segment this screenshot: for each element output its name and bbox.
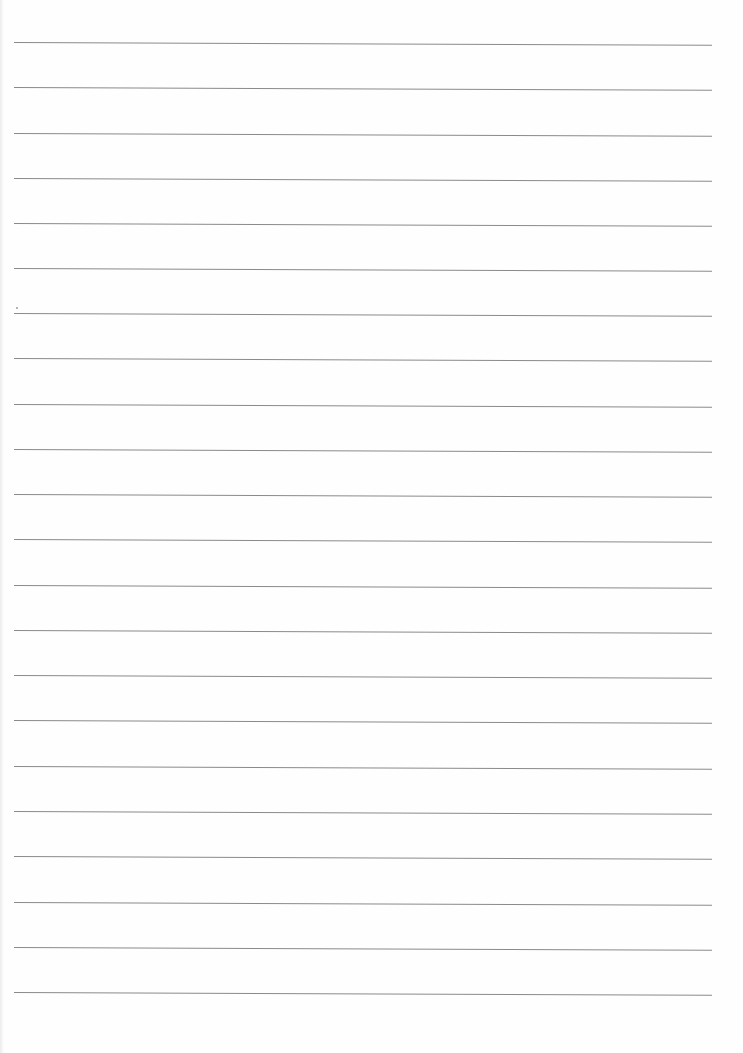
ruled-line <box>14 539 712 543</box>
ruled-line <box>14 404 712 408</box>
ruled-line <box>14 992 712 996</box>
ruled-line <box>14 449 712 453</box>
ruled-line <box>14 720 712 724</box>
scan-speck <box>16 307 18 309</box>
ruled-line <box>14 856 712 860</box>
ruled-line <box>14 902 712 906</box>
ruled-line <box>14 223 712 227</box>
ruled-line <box>14 87 712 91</box>
ruled-line <box>14 585 712 589</box>
ruled-line <box>14 178 712 182</box>
ruled-line <box>14 630 712 634</box>
ruled-line <box>14 268 712 272</box>
ruled-line <box>14 766 712 770</box>
ruled-line <box>14 494 712 498</box>
ruled-line <box>14 947 712 951</box>
ruled-line <box>14 675 712 679</box>
ruled-line <box>14 313 712 317</box>
scan-edge-shadow <box>0 0 4 1053</box>
lined-paper-page <box>0 0 743 1053</box>
ruled-line <box>14 811 712 815</box>
ruled-line <box>14 133 712 137</box>
ruled-line <box>14 358 712 362</box>
ruled-line <box>14 42 712 46</box>
